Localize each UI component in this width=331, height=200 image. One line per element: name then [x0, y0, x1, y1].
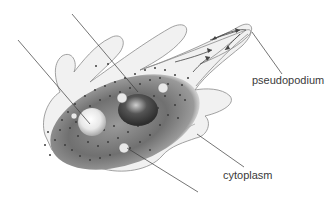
label-pseudopodium: pseudopodium — [252, 75, 324, 86]
leader-line-pseudopodium — [252, 32, 282, 74]
leader-line-cytoplasm — [197, 134, 244, 167]
amoeba-diagram: pseudopodium cytoplasm — [0, 0, 331, 200]
food-vacuole — [78, 108, 106, 136]
amoeba-illustration — [0, 0, 331, 200]
label-cytoplasm: cytoplasm — [223, 170, 273, 181]
